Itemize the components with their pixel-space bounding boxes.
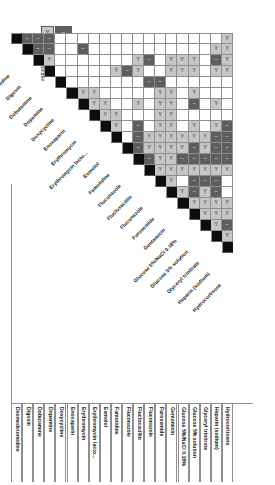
cell-glyph: – bbox=[189, 187, 198, 194]
column-label-text: Dopamine bbox=[47, 407, 52, 432]
column-label: Fluconazole bbox=[122, 404, 133, 482]
matrix-spacer bbox=[144, 242, 155, 253]
matrix-spacer bbox=[44, 198, 55, 209]
matrix-spacer bbox=[33, 220, 44, 231]
matrix-spacer bbox=[133, 165, 144, 176]
matrix-cell-incompatible: – bbox=[189, 143, 200, 154]
cell-glyph: Y bbox=[211, 99, 220, 107]
cell-glyph: – bbox=[200, 176, 209, 183]
matrix-cell-compatible: Y bbox=[166, 165, 177, 176]
cell-glyph: Y bbox=[189, 165, 198, 173]
matrix-cell-no-information bbox=[122, 88, 133, 99]
matrix-cell-incompatible: – bbox=[133, 121, 144, 132]
matrix-cell-incompatible: – bbox=[200, 176, 211, 187]
matrix-spacer bbox=[11, 66, 22, 77]
cell-glyph: – bbox=[222, 154, 231, 161]
matrix-spacer bbox=[33, 165, 44, 176]
matrix-cell-compatible: Y bbox=[78, 88, 89, 99]
matrix-cell-no-information bbox=[155, 55, 166, 66]
cell-glyph: Y bbox=[133, 55, 142, 63]
matrix-cell-incompatible: – bbox=[33, 33, 44, 44]
matrix-spacer bbox=[22, 231, 33, 242]
matrix-cell-self bbox=[44, 66, 55, 77]
cell-glyph: Y bbox=[200, 209, 209, 217]
matrix-cell-compatible: Y bbox=[211, 209, 222, 220]
matrix-cell-self bbox=[155, 176, 166, 187]
matrix-spacer bbox=[11, 77, 22, 88]
matrix-cell-no-information bbox=[166, 33, 177, 44]
matrix-cell-incompatible: – bbox=[211, 143, 222, 154]
matrix-spacer bbox=[22, 143, 33, 154]
matrix-cell-compatible: Y bbox=[166, 154, 177, 165]
cell-glyph: Y bbox=[133, 66, 142, 74]
cell-glyph: – bbox=[178, 154, 187, 161]
matrix-cell-compatible: Y bbox=[100, 99, 111, 110]
matrix-spacer bbox=[78, 187, 89, 198]
cell-glyph: – bbox=[211, 132, 220, 139]
cell-glyph: Y bbox=[78, 88, 87, 96]
matrix-row: –YYYY–Y–– bbox=[11, 143, 233, 154]
matrix-cell-incompatible: – bbox=[22, 33, 33, 44]
matrix-cell-compatible: Y bbox=[211, 220, 222, 231]
matrix-spacer bbox=[133, 242, 144, 253]
column-label: Doxycycline bbox=[55, 404, 66, 482]
matrix-cell-incompatible: – bbox=[222, 132, 233, 143]
column-label: Glucose 5%/NaCl 0.18% bbox=[178, 404, 189, 482]
matrix-spacer bbox=[89, 176, 100, 187]
matrix-spacer bbox=[11, 187, 22, 198]
matrix-spacer bbox=[78, 143, 89, 154]
matrix-spacer bbox=[211, 242, 222, 253]
matrix-cell-no-information bbox=[133, 88, 144, 99]
matrix-cell-incompatible: – bbox=[189, 187, 200, 198]
cell-glyph: – bbox=[200, 154, 209, 161]
matrix-cell-incompatible: – bbox=[122, 66, 133, 77]
matrix-cell-self bbox=[33, 55, 44, 66]
matrix-spacer bbox=[78, 154, 89, 165]
column-label: Enoxaparin bbox=[67, 404, 78, 482]
matrix-cell-compatible: Y bbox=[211, 165, 222, 176]
matrix-cell-no-information bbox=[222, 176, 233, 187]
matrix-spacer bbox=[22, 99, 33, 110]
cell-glyph: Y bbox=[167, 55, 176, 63]
matrix-spacer bbox=[166, 242, 177, 253]
matrix-spacer bbox=[89, 242, 100, 253]
matrix-cell-no-information bbox=[100, 66, 111, 77]
matrix-cell-compatible: Y bbox=[155, 143, 166, 154]
matrix-cell-incompatible: – bbox=[222, 154, 233, 165]
matrix-cell-no-information bbox=[89, 33, 100, 44]
matrix-cell-no-information bbox=[200, 121, 211, 132]
matrix-cell-compatible: Y bbox=[155, 165, 166, 176]
matrix-spacer bbox=[66, 176, 77, 187]
matrix-spacer bbox=[22, 220, 33, 231]
matrix-cell-compatible: Y bbox=[89, 99, 100, 110]
matrix-spacer bbox=[33, 66, 44, 77]
matrix-spacer bbox=[66, 231, 77, 242]
matrix-row: Y–Y– bbox=[11, 187, 233, 198]
cell-glyph: – bbox=[133, 132, 142, 139]
matrix-cell-incompatible: – bbox=[44, 44, 55, 55]
matrix-spacer bbox=[111, 231, 122, 242]
matrix-spacer bbox=[177, 209, 188, 220]
matrix-cell-no-information bbox=[66, 44, 77, 55]
cell-glyph: Y bbox=[200, 132, 209, 140]
column-label: Famotidine bbox=[111, 404, 122, 482]
matrix-spacer bbox=[155, 198, 166, 209]
matrix-cell-no-information bbox=[78, 77, 89, 88]
matrix-cell-compatible: Y bbox=[144, 132, 155, 143]
matrix-spacer bbox=[33, 143, 44, 154]
matrix-cell-no-information bbox=[111, 77, 122, 88]
matrix-cell-incompatible: – bbox=[177, 154, 188, 165]
figure-canvas: Y – Y site compatible incompatible No in… bbox=[0, 0, 275, 485]
matrix-cell-compatible: Y bbox=[189, 165, 200, 176]
cell-glyph: – bbox=[222, 132, 231, 139]
matrix-spacer bbox=[11, 231, 22, 242]
row-label-text: Glucose 5% solution bbox=[148, 249, 188, 289]
matrix-cell-incompatible: – bbox=[222, 220, 233, 231]
matrix-spacer bbox=[44, 77, 55, 88]
matrix-spacer bbox=[155, 242, 166, 253]
matrix-left-rule bbox=[11, 184, 12, 416]
cell-glyph: – bbox=[45, 34, 54, 41]
matrix-cell-self bbox=[89, 110, 100, 121]
matrix-spacer bbox=[55, 165, 66, 176]
matrix-cell-no-information bbox=[111, 33, 122, 44]
